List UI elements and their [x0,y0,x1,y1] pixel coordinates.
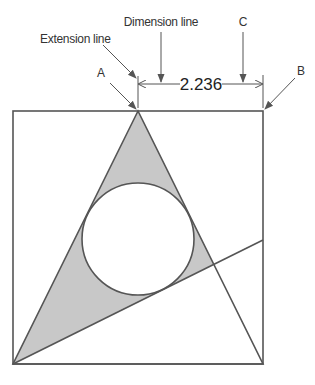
geometry-diagram: 2.236 Dimension line C Extension line A … [0,0,315,385]
dimension-line-label: Dimension line [124,15,199,29]
extension-line-label: Extension line [40,32,111,46]
dimension-value: 2.236 [180,75,223,94]
label-b: B [297,64,305,78]
label-c: C [239,15,248,29]
a-pointer [110,83,136,109]
label-a: A [97,66,105,80]
b-pointer [265,78,295,109]
shaded-region [13,111,263,364]
extension-line-pointer [103,45,136,78]
